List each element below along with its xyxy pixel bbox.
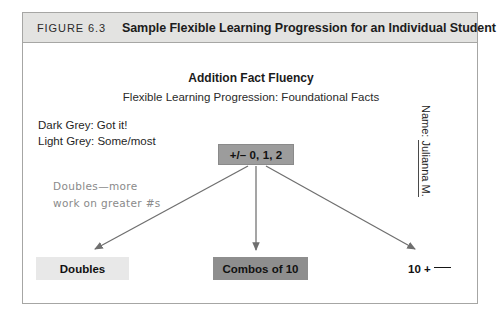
node-combos-of-10-label: Combos of 10 [222, 263, 298, 275]
node-doubles-label: Doubles [60, 263, 105, 275]
arrow-root-to-doubles [95, 166, 248, 249]
figure-container: FIGURE 6.3 Sample Flexible Learning Prog… [22, 12, 478, 304]
node-ten-plus: 10 + [408, 257, 468, 280]
node-doubles: Doubles [36, 257, 129, 280]
figure-header: FIGURE 6.3 Sample Flexible Learning Prog… [22, 12, 478, 43]
figure-number-label: FIGURE 6.3 [37, 22, 106, 34]
figure-title: Sample Flexible Learning Progression for… [122, 21, 496, 35]
figure-body: Addition Fact Fluency Flexible Learning … [22, 43, 478, 304]
fill-in-blank [434, 267, 451, 268]
node-ten-plus-label: 10 + [408, 263, 431, 275]
arrow-root-to-ten-plus [266, 166, 415, 249]
node-root: +/– 0, 1, 2 [218, 144, 294, 165]
node-combos-of-10: Combos of 10 [213, 257, 308, 280]
node-root-label: +/– 0, 1, 2 [230, 149, 283, 161]
